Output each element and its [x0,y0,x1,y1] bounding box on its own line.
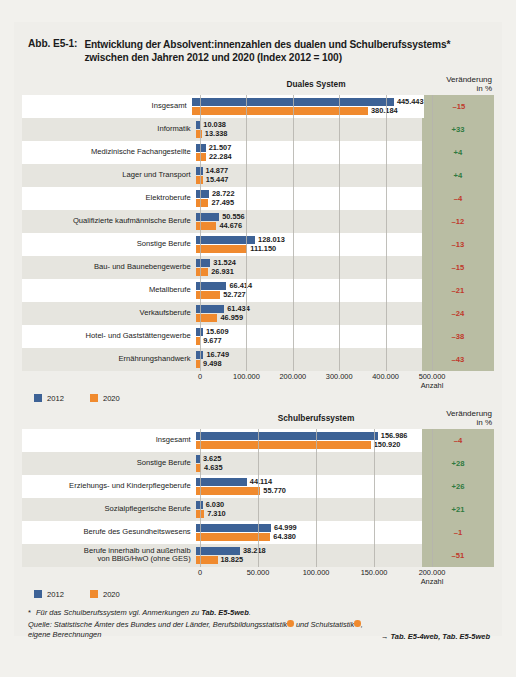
change-header-line1: Veränderung [446,409,492,418]
chart2-xaxis: 050.000100.000150.000200.000Anzahl [22,567,494,587]
chart1-header: Duales System Veränderung in % [22,75,494,95]
chart-row-label-line: Lager und Transport [122,171,190,180]
bar-value-label: 50.556 [222,212,245,221]
bar-line-2020: 9.677 [196,337,422,345]
footnote-source: Quelle: Statistische Ämter des Bundes un… [28,620,490,631]
chart1-plot: Insgesamt445.443380.184–15Informatik10.0… [22,95,494,371]
bar-line-2012: 15.609 [196,328,422,336]
bar-2020 [192,107,368,115]
chart-row: Informatik10.03813.338+33 [22,118,494,141]
axis-tick-label: 200.000 [419,568,446,577]
change-percent-cell: –13 [422,233,494,256]
change-percent-cell: +26 [422,475,494,498]
axis-tick-label: 500.000 [419,372,446,381]
bar-2020 [196,487,261,495]
bar-value-label: 64.380 [273,532,296,541]
chart-row-label-line: Metallberufe [149,286,191,295]
chart-row-bars: 31.52426.931 [196,256,422,279]
bar-line-2020: 380.184 [192,107,424,115]
chart-row-label-line: Sonstige Berufe [137,459,191,468]
bar-line-2020: 44.676 [196,222,422,230]
footnote-star-text: Für das Schulberufssystem vgl. Anmerkung… [36,608,251,619]
chart-row-bars: 128.013111.150 [196,233,422,256]
chart-row: Ernährungshandwerk16.7499.498–43 [22,348,494,371]
bar-line-2020: 111.150 [196,245,422,253]
figure-number: Abb. E5-1: [28,38,77,65]
bar-2012 [196,144,206,152]
bar-2012 [196,167,203,175]
footnote-source-c: , [361,620,363,629]
bar-value-label: 22.284 [209,152,232,161]
chart-row: Metallberufe66.41452.727–21 [22,279,494,302]
chart-row-bars: 3.6254.635 [196,452,422,475]
bar-2020 [196,291,220,299]
chart-row-label: Metallberufe [22,279,196,302]
axis-unit-label: Anzahl [421,577,444,586]
chart-row-bars: 15.6099.677 [196,325,422,348]
axis-tick-label: 100.000 [233,372,260,381]
chart-row-label-line: Sozialpflegerische Berufe [105,505,191,514]
chart-row: Erziehungs- und Kinderpflegeberufe44.114… [22,475,494,498]
footnote-source-a: Quelle: Statistische Ämter des Bundes un… [28,620,287,629]
bar-value-label: 150.920 [374,440,401,449]
change-percent-cell: +28 [422,452,494,475]
chart-row-label-line: Hotel- und Gaststättengewerbe [86,332,191,341]
chart-row-label-line: Insgesamt [156,436,191,445]
bar-2012 [196,351,204,359]
legend-swatch-2020-icon [90,394,98,402]
legend-swatch-2012-icon [34,394,42,402]
chart2-legend: 2012 2020 [22,587,494,599]
chart-row: Sonstige Berufe3.6254.635+28 [22,452,494,475]
bar-value-label: 13.338 [205,129,228,138]
bar-value-label: 66.414 [229,281,252,290]
chart-row-label: Verkaufsberufe [22,302,196,325]
bar-value-label: 64.999 [274,523,297,532]
chart-row-label: Ernährungshandwerk [22,348,196,371]
bar-line-2012: 3.625 [196,455,422,463]
change-percent-cell: –4 [422,187,494,210]
figure-title: Abb. E5-1: Entwicklung der Absolvent:inn… [22,32,494,69]
chart-row: Sozialpflegerische Berufe6.0307.310+21 [22,498,494,521]
bar-2012 [196,501,203,509]
bar-2020 [196,268,208,276]
bar-line-2012: 50.556 [196,213,422,221]
bar-line-2012: 156.986 [196,432,422,440]
bar-value-label: 7.310 [207,509,226,518]
chart-row-label: Elektroberufe [22,187,196,210]
bar-2020 [196,130,202,138]
bar-value-label: 380.184 [371,106,398,115]
chart-row: Medizinische Fachangestellte21.50722.284… [22,141,494,164]
bar-value-label: 55.770 [263,486,286,495]
bar-2020 [196,510,204,518]
bar-value-label: 28.722 [212,189,235,198]
bar-line-2012: 64.999 [196,524,422,532]
bar-2012 [196,305,225,313]
bar-value-label: 61.434 [227,304,250,313]
chart2-header: Schulberufssystem Veränderung in % [22,409,494,429]
figure-title-line2: zwischen den Jahren 2012 und 2020 (Index… [84,52,341,63]
chart-duales-system: Duales System Veränderung in % Insgesamt… [22,75,494,403]
footnote-star-tab-ref: Tab. E5-5web [201,608,249,617]
bar-2020 [196,556,218,564]
chart-row-label: Hotel- und Gaststättengewerbe [22,325,196,348]
legend-label-2012: 2012 [47,590,64,599]
bar-value-label: 15.609 [206,327,229,336]
chart-row-label-line: Medizinische Fachangestellte [91,148,191,157]
bar-value-label: 3.625 [203,454,222,463]
figure-page: Abb. E5-1: Entwicklung der Absolvent:inn… [0,0,516,677]
bar-line-2020: 18.825 [196,556,422,564]
change-header-line2: in % [476,418,492,427]
chart-row-label-line: Elektroberufe [146,194,191,203]
bar-line-2012: 38.218 [196,547,422,555]
bar-2020 [196,533,271,541]
figure-sheet: Abb. E5-1: Entwicklung der Absolvent:inn… [14,22,502,636]
bar-line-2012: 21.507 [196,144,422,152]
legend-swatch-2020-icon [90,590,98,598]
chart-row-bars: 44.11455.770 [196,475,422,498]
bar-line-2020: 150.920 [196,441,422,449]
figure-footnotes: * Für das Schulberufssystem vgl. Anmerku… [22,608,494,643]
bar-value-label: 44.114 [250,477,272,486]
bar-line-2020: 46.959 [196,314,422,322]
chart-row-label-line: Informatik [157,125,190,134]
chart-row-label: Sonstige Berufe [22,452,196,475]
